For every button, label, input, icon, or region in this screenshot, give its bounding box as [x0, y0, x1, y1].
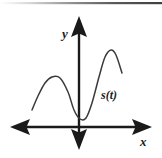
x-axis-label: x: [139, 134, 147, 149]
function-curve-group: [32, 50, 122, 120]
y-axis-label: y: [60, 26, 68, 41]
top-edge-rule: [0, 2, 162, 4]
math-graph-figure: y x s(t): [0, 0, 162, 158]
graph-canvas: y x s(t): [0, 0, 162, 158]
y-axis: [71, 16, 87, 150]
curve-label-s-of-t: s(t): [100, 88, 117, 102]
function-curve-s-of-t: [32, 50, 122, 120]
